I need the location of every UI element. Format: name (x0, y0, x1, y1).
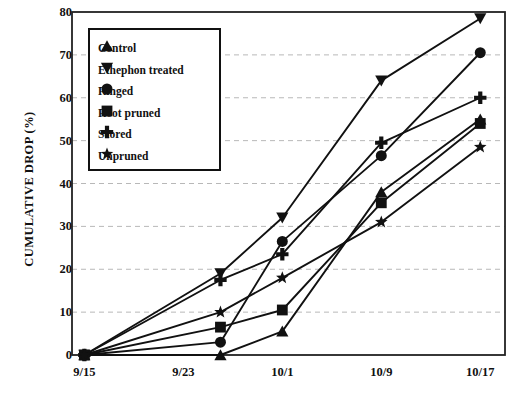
marker-square (376, 197, 387, 208)
chart-figure: CUMULATIVE DROP (%) 01020304050607080 9/… (0, 0, 532, 398)
circle-icon (98, 80, 116, 98)
plus-icon (98, 123, 116, 141)
marker-square (475, 118, 486, 129)
chart-legend: ControlEthephon treatedRingedRoot pruned… (88, 28, 221, 171)
marker-circle (277, 236, 288, 247)
marker-circle (102, 84, 113, 95)
marker-circle (376, 150, 387, 161)
marker-plus (101, 126, 113, 138)
legend-item-control[interactable]: Control (98, 37, 136, 59)
legend-item-ringed[interactable]: Ringed (98, 80, 133, 102)
marker-star (101, 147, 114, 159)
marker-triangle-down (474, 13, 486, 24)
marker-star (214, 306, 227, 318)
marker-circle (215, 337, 226, 348)
marker-triangle-up (101, 40, 113, 51)
marker-triangle-up (276, 326, 288, 337)
legend-item-root-pruned[interactable]: Root pruned (98, 102, 160, 124)
marker-square (277, 305, 288, 316)
plot-area (0, 0, 532, 398)
legend-item-ethephon-treated[interactable]: Ethephon treated (98, 59, 184, 81)
marker-triangle-down (101, 62, 113, 73)
star-icon (98, 145, 116, 163)
triangle-down-icon (98, 59, 116, 77)
legend-item-unpruned[interactable]: Unpruned (98, 145, 149, 167)
marker-triangle-down (375, 75, 387, 86)
marker-circle (475, 47, 486, 58)
triangle-up-icon (98, 37, 116, 55)
marker-plus (474, 92, 486, 104)
marker-star (276, 271, 289, 283)
legend-item-scored[interactable]: Scored (98, 123, 132, 145)
marker-square (215, 322, 226, 333)
square-icon (98, 102, 116, 120)
marker-square (102, 105, 113, 116)
